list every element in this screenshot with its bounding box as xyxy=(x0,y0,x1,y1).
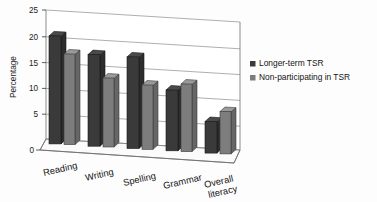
bar-grammar-non-participating-side xyxy=(192,80,197,151)
bar-spelling-non-participating-side xyxy=(153,81,158,149)
y-tick-label-5: 5 xyxy=(33,110,38,119)
legend: Longer-term TSR Non-participating in TSR xyxy=(250,58,350,82)
y-axis: 25 20 15 10 5 0 Percentage xyxy=(9,6,46,155)
legend-label-non-participating-in-tsr: Non-participating in TSR xyxy=(259,72,350,82)
bar-chart-figure: 25 20 15 10 5 0 Percentage xyxy=(0,0,377,202)
category-label-spelling: Spelling xyxy=(122,171,156,188)
bar-overall-literacy-longer-term xyxy=(205,122,217,154)
legend-swatch-non-participating-in-tsr xyxy=(250,75,256,81)
x-axis-category-labels: Reading Writing Spelling Grammar Overall… xyxy=(42,160,238,200)
bar-writing-non-participating-side xyxy=(114,74,119,147)
bar-spelling-non-participating xyxy=(142,85,153,149)
bar-grammar-non-participating xyxy=(181,84,192,152)
bar-overall-literacy-non-participating xyxy=(220,112,231,154)
y-tick-label-20: 20 xyxy=(29,33,39,42)
bar-writing-longer-term xyxy=(88,55,100,147)
category-label-reading: Reading xyxy=(42,160,78,178)
y-axis-title: Percentage xyxy=(9,56,18,98)
bar-reading-non-participating xyxy=(64,54,75,145)
bar-overall-literacy-non-participating-side xyxy=(231,108,236,154)
bar-writing-non-participating xyxy=(103,78,114,147)
y-tick-label-10: 10 xyxy=(29,84,39,93)
category-label-grammar: Grammar xyxy=(162,172,203,191)
bar-group-grammar xyxy=(166,80,197,152)
legend-label-longer-term-tsr: Longer-term TSR xyxy=(259,58,324,68)
y-tick-label-15: 15 xyxy=(29,59,39,68)
legend-swatch-longer-term-tsr xyxy=(250,61,256,67)
y-tick-label-25: 25 xyxy=(29,6,39,15)
category-label-writing: Writing xyxy=(84,167,114,183)
bar-reading-non-participating-side xyxy=(75,50,80,145)
bar-grammar-longer-term xyxy=(166,90,178,151)
chart-canvas: 25 20 15 10 5 0 Percentage xyxy=(0,0,377,202)
y-tick-label-0: 0 xyxy=(29,146,34,155)
bar-spelling-longer-term xyxy=(127,57,139,149)
bar-reading-longer-term xyxy=(49,36,61,144)
